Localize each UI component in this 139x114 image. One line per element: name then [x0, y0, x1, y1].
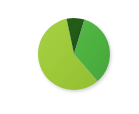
- pie-chart-figure: [0, 0, 139, 114]
- pie-chart-svg: [0, 0, 139, 114]
- pie-slices-group: [38, 18, 110, 90]
